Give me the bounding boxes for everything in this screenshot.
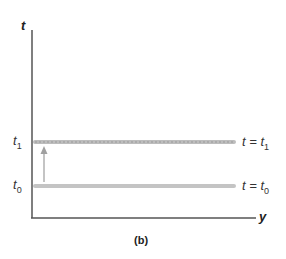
figure-caption: (b) [134, 234, 148, 246]
tick-label-t1: t1 [13, 133, 22, 151]
tick-label-t0: t0 [13, 177, 22, 195]
vertical-axis-label: t [21, 18, 25, 33]
tick-label-t1-sub: 1 [17, 141, 22, 151]
equation-label-t1: t = t1 [242, 134, 269, 152]
tick-label-t0-sub: 0 [17, 185, 22, 195]
equation-label-t1-sub: 1 [264, 142, 269, 152]
diagram-canvas [0, 0, 286, 259]
arrow-up-icon [41, 146, 48, 182]
equation-label-t0: t = t0 [242, 178, 269, 196]
equation-label-t1-text: t = t [242, 134, 264, 149]
equation-label-t0-sub: 0 [264, 186, 269, 196]
horizontal-axis-label: y [259, 209, 266, 224]
equation-label-t0-text: t = t [242, 178, 264, 193]
